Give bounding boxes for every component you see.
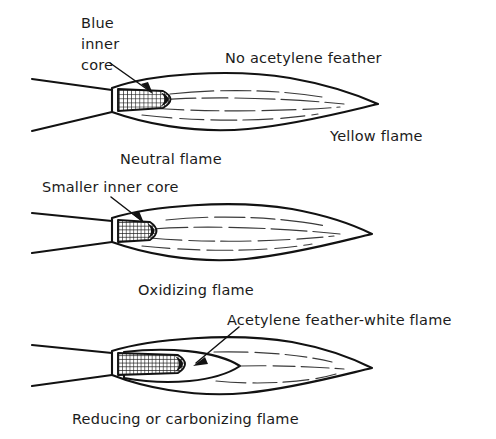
neutral-nozzle-upper [32, 79, 112, 90]
reducing-nozzle-upper [32, 345, 112, 353]
oxidizing-nozzle-lower [32, 242, 112, 253]
neutral-outer-label: Yellow flame [329, 128, 423, 144]
neutral-core-label-line3: core [81, 57, 113, 73]
neutral-flame-diagram: Blue inner core No acetylene feather Yel… [32, 15, 423, 167]
reducing-flame-diagram: Acetylene feather-white flame Reducing o… [32, 312, 452, 427]
neutral-no-feather-label: No acetylene feather [225, 50, 382, 66]
flame-diagram-figure: Blue inner core No acetylene feather Yel… [0, 0, 496, 439]
diagram-canvas: Blue inner core No acetylene feather Yel… [0, 0, 496, 439]
oxidizing-flame-diagram: Smaller inner core Oxidizing flame [32, 179, 372, 298]
reducing-feather-label: Acetylene feather-white flame [227, 312, 452, 328]
reducing-nozzle-lower [32, 375, 112, 386]
neutral-nozzle-lower [32, 112, 112, 131]
reducing-flame-caption: Reducing or carbonizing flame [72, 411, 299, 427]
neutral-core-label-line1: Blue [81, 15, 114, 31]
oxidizing-flame-caption: Oxidizing flame [138, 282, 254, 298]
neutral-core-label-line2: inner [81, 36, 119, 52]
oxidizing-core-label: Smaller inner core [42, 179, 179, 195]
neutral-flame-caption: Neutral flame [120, 151, 222, 167]
oxidizing-nozzle-upper [32, 213, 112, 221]
